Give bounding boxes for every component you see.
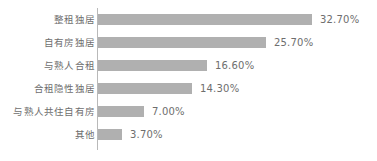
bar-4 xyxy=(98,106,144,117)
bar-track-3: 14.30% xyxy=(98,77,377,100)
bar-value-5: 3.70% xyxy=(130,123,163,146)
bar-row: 与熟人合租 16.60% xyxy=(0,54,377,77)
bar-0 xyxy=(98,14,312,25)
bar-3 xyxy=(98,83,192,94)
bar-value-1: 25.70% xyxy=(274,31,313,54)
bar-value-3: 14.30% xyxy=(200,77,239,100)
bar-track-4: 7.00% xyxy=(98,100,377,123)
bar-row: 与熟人共住自有房 7.00% xyxy=(0,100,377,123)
bar-row: 整租独居 32.70% xyxy=(0,8,377,31)
bar-track-1: 25.70% xyxy=(98,31,377,54)
category-label-5: 其他 xyxy=(75,123,95,146)
bar-2 xyxy=(98,60,207,71)
category-label-2: 与熟人合租 xyxy=(44,54,95,77)
bar-5 xyxy=(98,129,122,140)
bar-track-2: 16.60% xyxy=(98,54,377,77)
bar-value-0: 32.70% xyxy=(320,8,359,31)
bar-rows: 整租独居 32.70% 自有房独居 25.70% 与熟人合租 16.60% 合租… xyxy=(0,8,377,146)
bar-value-4: 7.00% xyxy=(152,100,185,123)
bar-row: 其他 3.70% xyxy=(0,123,377,146)
horizontal-bar-chart: 整租独居 32.70% 自有房独居 25.70% 与熟人合租 16.60% 合租… xyxy=(0,0,377,161)
category-label-4: 与熟人共住自有房 xyxy=(13,100,95,123)
bar-track-5: 3.70% xyxy=(98,123,377,146)
bar-1 xyxy=(98,37,266,48)
bar-row: 自有房独居 25.70% xyxy=(0,31,377,54)
category-label-1: 自有房独居 xyxy=(44,31,95,54)
category-label-0: 整租独居 xyxy=(54,8,95,31)
bar-row: 合租隐性独居 14.30% xyxy=(0,77,377,100)
bar-value-2: 16.60% xyxy=(215,54,254,77)
category-label-3: 合租隐性独居 xyxy=(34,77,95,100)
bar-track-0: 32.70% xyxy=(98,8,377,31)
